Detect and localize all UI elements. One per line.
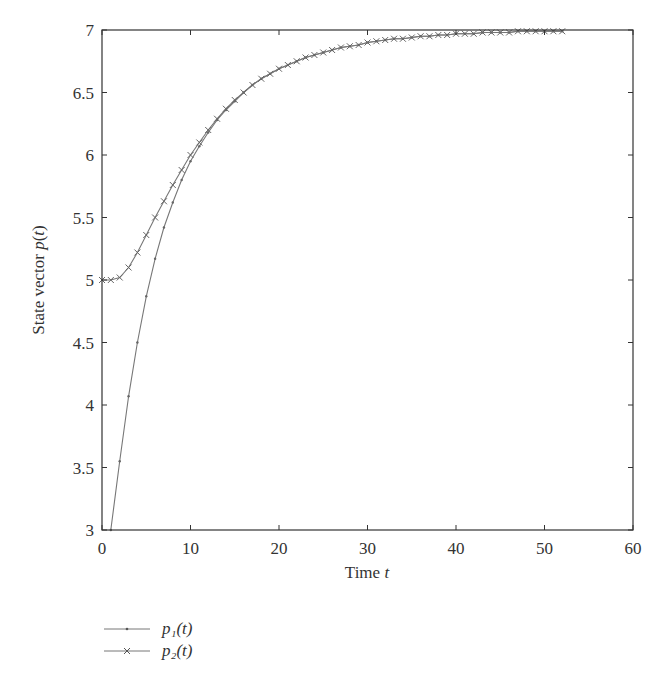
data-point — [136, 341, 138, 343]
x-tick-label: 50 — [536, 539, 553, 558]
data-point — [179, 167, 185, 173]
data-point — [119, 460, 121, 462]
data-point — [188, 152, 194, 158]
y-tick-label: 6.5 — [73, 84, 94, 103]
data-point — [117, 275, 123, 281]
data-point — [329, 47, 335, 53]
y-tick-label: 7 — [86, 21, 95, 40]
data-point — [152, 215, 158, 221]
data-point — [143, 232, 149, 238]
data-point — [249, 82, 255, 88]
legend-label-p1: p₁(t) — [162, 619, 192, 639]
data-point — [258, 76, 264, 82]
y-axis-label: State vector p(t) — [29, 225, 48, 335]
line-dot-marker-icon — [104, 622, 150, 636]
data-point — [154, 258, 156, 260]
x-tick-label: 20 — [271, 539, 288, 558]
x-tick-label: 30 — [359, 539, 376, 558]
legend-item-p1: p₁(t) — [104, 618, 192, 640]
x-tick-label: 0 — [98, 539, 107, 558]
data-point — [276, 66, 282, 72]
data-point — [198, 145, 200, 147]
x-axis-label: Time t — [345, 563, 391, 582]
axes-frame — [102, 30, 633, 530]
x-tick-label: 40 — [448, 539, 465, 558]
data-point — [241, 90, 247, 96]
legend-item-p2: p₂(t) — [104, 640, 192, 662]
x-tick-label: 60 — [625, 539, 642, 558]
data-point — [134, 250, 140, 256]
data-point — [163, 226, 165, 228]
y-tick-label: 5.5 — [73, 209, 94, 228]
data-point — [320, 50, 326, 56]
y-tick-label: 4.5 — [73, 334, 94, 353]
series-2 — [99, 28, 565, 283]
x-tick-label: 10 — [182, 539, 199, 558]
data-point — [267, 71, 273, 77]
data-point — [294, 58, 300, 64]
data-point — [311, 52, 317, 58]
data-point — [161, 198, 167, 204]
y-tick-label: 5 — [86, 271, 95, 290]
ticks-layer: 010203040506033.544.555.566.57 — [73, 21, 642, 558]
y-tick-label: 4 — [86, 396, 95, 415]
series-layer — [99, 28, 565, 531]
data-point — [189, 160, 191, 162]
data-point — [126, 265, 132, 271]
plot-area: 010203040506033.544.555.566.57 Time t St… — [0, 0, 664, 685]
y-tick-label: 3 — [86, 521, 95, 540]
data-point — [127, 395, 129, 397]
series-1 — [110, 30, 564, 531]
line-chart: 010203040506033.544.555.566.57 Time t St… — [0, 0, 664, 685]
data-point — [303, 55, 309, 61]
data-point — [180, 179, 182, 181]
y-tick-label: 6 — [86, 146, 95, 165]
legend: p₁(t) p₂(t) — [104, 618, 192, 662]
y-tick-label: 3.5 — [73, 459, 94, 478]
data-point — [170, 182, 176, 188]
line-x-marker-icon — [104, 644, 150, 658]
data-point — [285, 62, 291, 68]
legend-label-p2: p₂(t) — [162, 641, 192, 661]
data-point — [172, 201, 174, 203]
data-point — [145, 295, 147, 297]
